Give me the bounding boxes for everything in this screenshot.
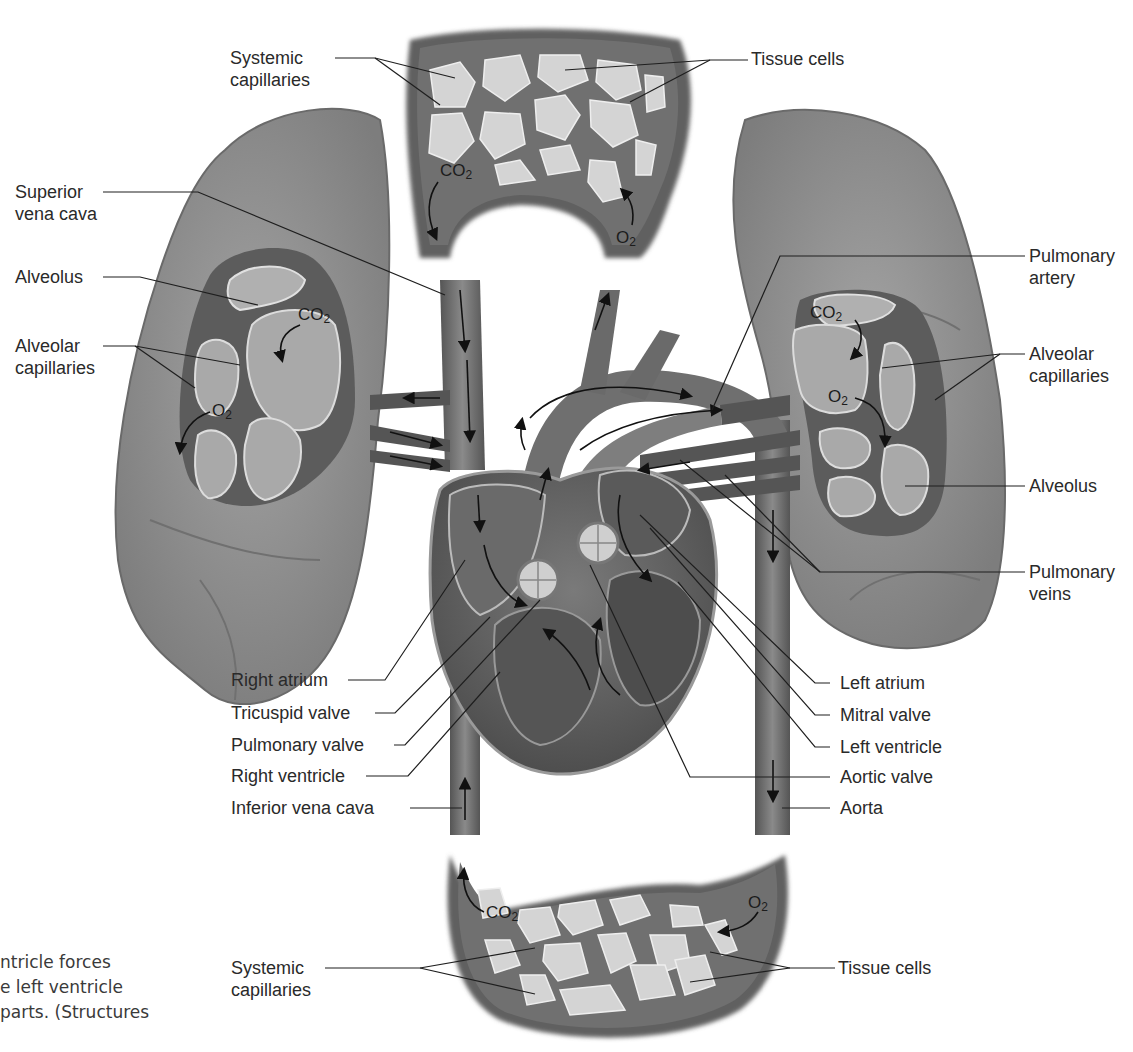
label-right-atrium: Right atrium bbox=[231, 669, 328, 691]
figure-caption-fragment: ntricle forces e left ventricle parts. (… bbox=[0, 950, 149, 1025]
label-right-ventricle: Right ventricle bbox=[231, 765, 345, 787]
caption-line: e left ventricle bbox=[0, 975, 149, 1000]
label-line: Alveolar bbox=[15, 335, 95, 357]
systemic-capillary-bed-bottom: CO2 O2 bbox=[447, 855, 788, 1038]
label-tissue-cells-top: Tissue cells bbox=[751, 48, 844, 70]
label-pulmonary-artery: Pulmonary artery bbox=[1029, 245, 1115, 289]
circulation-illustration: CO2 O2 CO2 O2 bbox=[0, 0, 1133, 1052]
label-pulmonary-valve: Pulmonary valve bbox=[231, 734, 364, 756]
label-line: Systemic bbox=[230, 47, 310, 69]
label-line: capillaries bbox=[1029, 365, 1109, 387]
label-line: Pulmonary bbox=[1029, 561, 1115, 583]
label-line: veins bbox=[1029, 583, 1115, 605]
label-alveolus-left: Alveolus bbox=[15, 266, 83, 288]
label-line: vena cava bbox=[15, 203, 97, 225]
label-systemic-capillaries-bottom: Systemic capillaries bbox=[231, 957, 311, 1001]
label-line: Superior bbox=[15, 181, 97, 203]
label-inferior-vena-cava: Inferior vena cava bbox=[231, 797, 374, 819]
label-aortic-valve: Aortic valve bbox=[840, 766, 933, 788]
label-tricuspid-valve: Tricuspid valve bbox=[231, 702, 350, 724]
label-alveolus-right: Alveolus bbox=[1029, 475, 1097, 497]
label-line: artery bbox=[1029, 267, 1115, 289]
label-line: Pulmonary bbox=[1029, 245, 1115, 267]
label-line: capillaries bbox=[15, 357, 95, 379]
label-pulmonary-veins: Pulmonary veins bbox=[1029, 561, 1115, 605]
svg-text:CO2: CO2 bbox=[486, 903, 519, 924]
label-mitral-valve: Mitral valve bbox=[840, 704, 931, 726]
label-line: Alveolar bbox=[1029, 343, 1109, 365]
label-tissue-cells-bottom: Tissue cells bbox=[838, 957, 931, 979]
label-line: Systemic bbox=[231, 957, 311, 979]
label-line: capillaries bbox=[230, 69, 310, 91]
label-left-ventricle: Left ventricle bbox=[840, 736, 942, 758]
label-alveolar-capillaries-right: Alveolar capillaries bbox=[1029, 343, 1109, 387]
label-alveolar-capillaries-left: Alveolar capillaries bbox=[15, 335, 95, 379]
label-line: capillaries bbox=[231, 979, 311, 1001]
systemic-capillary-bed-top: CO2 O2 bbox=[406, 29, 691, 258]
label-superior-vena-cava: Superior vena cava bbox=[15, 181, 97, 225]
caption-line: parts. (Structures bbox=[0, 1000, 149, 1025]
label-systemic-capillaries-top: Systemic capillaries bbox=[230, 47, 310, 91]
label-aorta: Aorta bbox=[840, 797, 883, 819]
left-lung: CO2 O2 bbox=[116, 109, 390, 704]
label-left-atrium: Left atrium bbox=[840, 672, 925, 694]
caption-line: ntricle forces bbox=[0, 950, 149, 975]
